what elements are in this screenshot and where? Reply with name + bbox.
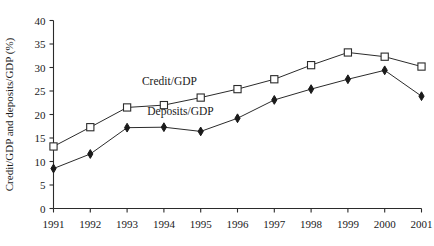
x-axis-tick-label: 1996 [227, 218, 250, 230]
x-axis-tick-label: 1994 [153, 218, 176, 230]
y-axis-tick-label: 35 [35, 38, 47, 50]
y-axis-tick-label: 10 [35, 156, 47, 168]
y-axis-tick-label: 0 [40, 203, 46, 215]
data-point-marker-diamond [198, 127, 203, 136]
data-point-marker-square [197, 94, 204, 101]
data-series [50, 49, 425, 173]
y-axis-tick-label: 25 [35, 85, 47, 97]
x-axis-tick-label: 2001 [411, 218, 433, 230]
data-point-marker-diamond [419, 92, 424, 101]
x-axis-tick-label: 1991 [43, 218, 65, 230]
series-line-credit-gdp [54, 52, 422, 146]
chart-container: 0510152025303540 19911992199319941995199… [0, 0, 434, 246]
y-axis-tick-label: 30 [35, 62, 47, 74]
x-axis-tick-label: 1995 [190, 218, 213, 230]
data-point-marker-diamond [272, 96, 277, 105]
y-axis: 0510152025303540 [35, 15, 54, 215]
data-point-marker-square [308, 62, 315, 69]
line-chart: 0510152025303540 19911992199319941995199… [0, 0, 434, 246]
y-axis-tick-label: 40 [35, 15, 47, 27]
series-annotation-label: Deposits/GDP [147, 105, 213, 118]
y-axis-title: Credit/GDP and deposits/GDP (%) [3, 37, 16, 191]
x-axis-tick-label: 2000 [374, 218, 397, 230]
data-point-marker-square [344, 49, 351, 56]
data-point-marker-diamond [161, 123, 166, 132]
x-axis-tick-label: 1992 [79, 218, 101, 230]
data-point-marker-diamond [345, 75, 350, 84]
data-point-marker-square [87, 124, 94, 131]
x-axis: 1991199219931994199519961997199819992000… [43, 209, 433, 230]
data-point-marker-diamond [51, 164, 56, 173]
y-axis-tick-label: 20 [35, 109, 47, 121]
data-point-marker-square [234, 86, 241, 93]
y-axis-tick-label: 5 [40, 179, 46, 191]
x-axis-tick-label: 1998 [300, 218, 323, 230]
data-point-marker-square [381, 53, 388, 60]
data-point-marker-square [271, 76, 278, 83]
data-point-marker-square [50, 143, 57, 150]
series-annotation-label: Credit/GDP [142, 75, 197, 87]
y-axis-title-label: Credit/GDP and deposits/GDP (%) [3, 37, 16, 191]
data-point-marker-square [418, 63, 425, 70]
x-axis-tick-label: 1999 [337, 218, 360, 230]
data-point-marker-diamond [88, 150, 93, 159]
x-axis-tick-label: 1993 [116, 218, 139, 230]
data-point-marker-diamond [382, 66, 387, 75]
data-point-marker-diamond [125, 123, 130, 132]
data-point-marker-diamond [309, 85, 314, 94]
y-axis-tick-label: 15 [35, 132, 47, 144]
data-point-marker-square [124, 104, 131, 111]
data-point-marker-diamond [235, 114, 240, 123]
x-axis-tick-label: 1997 [263, 218, 286, 230]
